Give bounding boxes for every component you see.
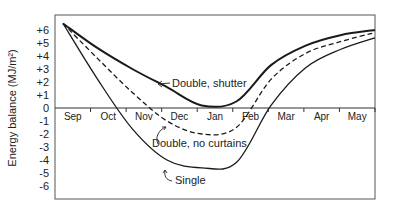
y-tick-label: +3 <box>36 63 49 75</box>
x-tick-label: Mar <box>277 111 295 122</box>
x-tick-label: Sep <box>64 111 82 122</box>
y-tick-label: +2 <box>36 76 49 88</box>
label-double-no-curtains: Double, no curtains <box>152 137 247 149</box>
y-tick-label: -6 <box>39 180 49 192</box>
x-tick-label: Oct <box>101 111 117 122</box>
annotation-double-shutter: Double, shutter <box>158 77 247 89</box>
y-tick-label: -3 <box>39 141 49 153</box>
x-tick-label: Nov <box>135 111 153 122</box>
series-line-double-shutter <box>63 24 375 107</box>
x-tick-label: Apr <box>314 111 330 122</box>
x-tick-label: Feb <box>242 111 260 122</box>
x-axis-ticks: SepOctNovDecJanFebMarAprMay <box>64 108 375 122</box>
label-single: Single <box>175 174 206 186</box>
x-tick-label: May <box>348 111 367 122</box>
y-tick-label: +4 <box>36 50 49 62</box>
label-double-shutter: Double, shutter <box>172 77 247 89</box>
y-tick-label: +5 <box>36 37 49 49</box>
y-axis-label: Energy balance (MJ/m²) <box>6 49 18 166</box>
annotation-single: Single <box>163 170 206 186</box>
x-tick-label: Jan <box>207 111 223 122</box>
y-tick-label: +6 <box>36 24 49 36</box>
y-tick-label: -1 <box>39 115 49 127</box>
y-axis-ticks: +6+5+4+3+2+10-1-2-3-4-5-6 <box>36 24 49 192</box>
y-tick-label: -4 <box>39 154 49 166</box>
y-tick-label: +1 <box>36 89 49 101</box>
energy-balance-chart: +6+5+4+3+2+10-1-2-3-4-5-6 SepOctNovDecJa… <box>0 0 394 210</box>
y-tick-label: -5 <box>39 167 49 179</box>
y-tick-label: 0 <box>43 102 49 114</box>
arrow-icon <box>163 170 172 181</box>
x-tick-label: Dec <box>171 111 189 122</box>
y-tick-label: -2 <box>39 128 49 140</box>
